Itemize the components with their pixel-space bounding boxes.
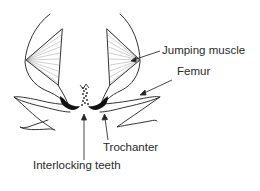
left-body-outline [25,14,62,100]
label-interlocking-teeth: Interlocking teeth [33,160,121,172]
left-tibia [20,120,55,130]
left-trochanter [60,96,80,110]
right-trochanter [88,96,108,110]
jumping-muscle-leader [133,51,160,60]
interlocking-teeth [81,87,89,106]
diagram: Jumping muscle Femur Trochanter Interloc… [0,0,260,191]
trochanter-leader [105,118,108,140]
femur-leader [142,80,172,94]
label-trochanter: Trochanter [103,142,158,154]
label-femur: Femur [177,66,210,78]
label-jumping-muscle: Jumping muscle [162,45,245,57]
